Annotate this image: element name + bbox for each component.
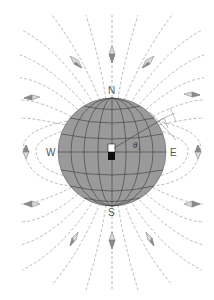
compass-top-right-icon	[142, 56, 154, 68]
label-theta: θ₁	[133, 140, 141, 150]
earth-dipole-diagram	[0, 0, 214, 300]
label-south: S	[108, 208, 115, 218]
magnet-north-pole	[108, 144, 115, 152]
compass-bottom-icon	[109, 232, 115, 249]
compass-top-left-icon	[70, 56, 82, 68]
compass-lower-left-icon	[70, 232, 78, 246]
compass-bottom-right-icon	[184, 201, 200, 207]
label-west: W	[46, 148, 55, 158]
compass-bottom-left-icon	[24, 201, 40, 207]
compass-lower-right-icon	[146, 232, 154, 246]
compass-west-icon	[23, 145, 29, 159]
bar-magnet	[108, 144, 115, 160]
compass-east-icon	[195, 145, 201, 159]
magnet-south-pole	[108, 152, 115, 160]
compass-right-icon	[184, 92, 200, 97]
label-east: E	[170, 148, 177, 158]
label-north: N	[108, 86, 115, 96]
compass-left-icon	[24, 95, 40, 100]
compass-top-icon	[109, 46, 115, 63]
